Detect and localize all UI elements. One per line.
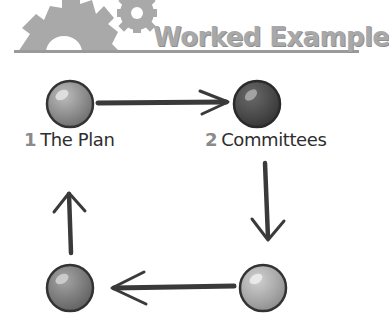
node-1-sphere [47, 81, 93, 127]
arrow-1-to-2 [98, 91, 228, 114]
node-1-label: 1The Plan [24, 129, 114, 150]
node-2-label: 2Committees [205, 129, 326, 150]
arrow-4-to-1 [54, 193, 85, 253]
node-2-number: 2 [205, 129, 217, 150]
node-2-sphere [234, 81, 280, 127]
arrow-3-to-4 [112, 272, 234, 304]
large-gear [18, 0, 120, 52]
node-1-number: 1 [24, 129, 36, 150]
banner-title: Worked Example [153, 22, 389, 52]
node-1-text: The Plan [40, 129, 114, 150]
arrow-2-to-3 [252, 163, 284, 240]
small-gear [117, 0, 157, 33]
node-4-sphere [47, 265, 93, 311]
node-3-sphere [240, 265, 286, 311]
node-2-text: Committees [221, 129, 326, 150]
